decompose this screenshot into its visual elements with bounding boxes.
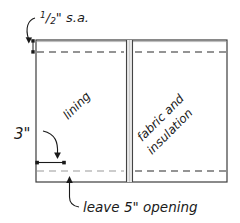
opening-leader-curve (70, 182, 80, 207)
side-measure-label: 3" (14, 125, 30, 143)
diagram-canvas: 1/2" s.a. 3" leave 5" opening lining fab… (0, 0, 240, 223)
sa-measure-tick-top (31, 39, 34, 42)
sa-leader-curve (27, 18, 35, 39)
sa-leader-arrowhead (26, 37, 32, 43)
sa-measure-tick-bottom (31, 50, 34, 53)
opening-label: leave 5" opening (83, 199, 198, 215)
sewing-diagram: 1/2" s.a. 3" leave 5" opening lining fab… (0, 0, 240, 223)
three-measure-tick-right (62, 161, 66, 165)
three-measure-tick-left (35, 161, 39, 165)
seam-allowance-suffix: " s.a. (56, 10, 89, 25)
seam-allowance-label: 1/2" s.a. (40, 10, 89, 26)
